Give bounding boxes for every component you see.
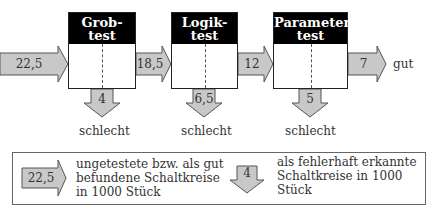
legend-right-value: 22,5 [22, 171, 60, 185]
input-value: 22,5 [2, 57, 56, 71]
stage-box-logiktest: Logik-test [171, 12, 238, 89]
stage-header: Logik-test [172, 13, 237, 44]
stage-header: Parameter-test [274, 13, 347, 44]
legend-down-line: Schaltkreise in 1000 [277, 169, 417, 183]
reject-label-2: schlecht [181, 124, 232, 138]
divider-dashed [205, 44, 206, 88]
flow-value-2: 12 [238, 57, 266, 71]
legend-down-line: Stück [277, 183, 417, 197]
legend-right-line: in 1000 Stück [76, 185, 224, 199]
legend-down-line: als fehlerhaft erkannte [277, 155, 417, 169]
reject-label-1: schlecht [79, 124, 130, 138]
legend-down-description: als fehlerhaft erkannte Schaltkreise in … [277, 155, 417, 197]
reject-value-1: 4 [91, 92, 113, 106]
stage-title-line2: test [88, 28, 116, 43]
legend-right-line: ungetestete bzw. als gut [76, 157, 224, 171]
legend-down-value: 4 [237, 166, 257, 180]
output-label: gut [393, 57, 413, 71]
reject-label-3: schlecht [285, 124, 336, 138]
divider-dashed [311, 44, 312, 88]
output-value: 7 [350, 57, 377, 71]
legend-right-line: befundene Schaltkreise [76, 171, 224, 185]
reject-value-3: 5 [299, 92, 321, 106]
legend-right-description: ungetestete bzw. als gut befundene Schal… [76, 157, 224, 199]
stage-box-grobtest: Grob-test [68, 12, 136, 89]
flow-value-1: 18,5 [136, 57, 164, 71]
reject-value-2: 6,5 [190, 92, 218, 106]
stage-header: Grob-test [69, 13, 135, 44]
divider-dashed [102, 44, 103, 88]
stage-title-line2: test [191, 28, 219, 43]
stage-box-parametertest: Parameter-test [273, 12, 348, 89]
stage-title-line2: test [297, 28, 325, 43]
